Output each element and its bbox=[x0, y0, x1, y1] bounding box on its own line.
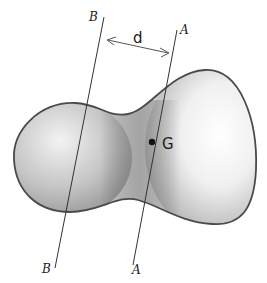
centroid-point bbox=[149, 139, 155, 145]
axis-b-top-label: B bbox=[88, 10, 98, 24]
distance-label: d bbox=[133, 29, 143, 47]
parallel-axis-diagram: B A B A d G bbox=[0, 0, 267, 283]
centroid-label: G bbox=[162, 135, 174, 153]
axis-b-bottom-label: B bbox=[41, 262, 51, 276]
axis-a-bottom-label: A bbox=[131, 263, 141, 277]
diagram-canvas: B A B A d G bbox=[0, 0, 267, 283]
body-shading bbox=[0, 60, 267, 240]
axis-a-top-label: A bbox=[179, 23, 189, 37]
